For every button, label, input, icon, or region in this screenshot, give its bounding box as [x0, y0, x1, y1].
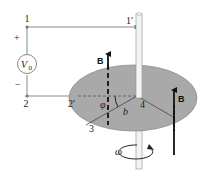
label-node-1: 1 [25, 13, 30, 24]
label-field-right: B [178, 94, 185, 104]
label-node-3: 3 [89, 123, 94, 134]
label-plus: + [14, 32, 20, 43]
node-1 [25, 25, 28, 28]
label-node-4: 4 [140, 99, 145, 110]
faraday-disk-diagram: V 0 1 1′ 2 2′ 3 4 + − B B φ b ω [0, 0, 214, 179]
label-node-2: 2 [24, 98, 29, 109]
shaft-upper [136, 14, 142, 98]
label-minus: − [15, 79, 21, 90]
shaft-top-cap [136, 13, 142, 15]
source-subscript: 0 [29, 64, 33, 72]
shaft-lower [136, 131, 142, 169]
label-field-left: B [97, 56, 104, 66]
label-angle-phi: φ [100, 99, 106, 110]
label-node-2-prime: 2′ [68, 98, 75, 109]
label-omega: ω [115, 146, 122, 157]
voltage-source: V 0 [18, 55, 37, 74]
label-radius-b: b [123, 106, 128, 117]
label-node-1-prime: 1′ [126, 15, 133, 26]
